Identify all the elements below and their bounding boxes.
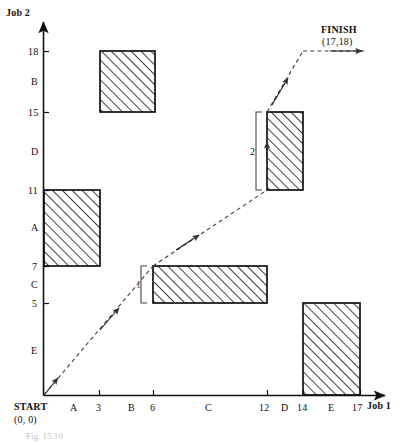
block-c <box>153 266 267 303</box>
block-b <box>100 51 155 112</box>
x-tick-17: 17 <box>352 402 362 413</box>
x-segment-label-c: C <box>205 402 212 413</box>
y-segment-label-b: B <box>31 76 38 87</box>
y-tick-7: 7 <box>32 261 37 272</box>
start-label: START <box>14 401 47 412</box>
block-a <box>44 190 100 266</box>
y-segment-label-d: D <box>31 146 38 157</box>
gantt-job-sequencing-chart: Job 2 Job 1 18 15 11 7 5 B D A C E 3 6 1… <box>0 0 412 443</box>
obstacle-blocks <box>44 51 360 395</box>
figure-caption: Fig. 15.10 <box>26 431 63 441</box>
chart-canvas <box>0 0 412 443</box>
x-segment-label-b: B <box>128 402 135 413</box>
y-segment-label-c: C <box>31 279 38 290</box>
y-tick-11: 11 <box>28 185 38 196</box>
y-segment-label-a: A <box>31 222 38 233</box>
bracket-d-value: 2 <box>250 146 255 157</box>
y-tick-5: 5 <box>32 298 37 309</box>
y-tick-18: 18 <box>28 46 38 57</box>
block-e <box>303 303 360 395</box>
x-segment-label-d: D <box>281 402 288 413</box>
y-tick-15: 15 <box>28 107 38 118</box>
finish-coords: (17,18) <box>322 36 353 47</box>
bracket-d <box>256 112 262 190</box>
x-tick-3: 3 <box>96 402 101 413</box>
x-tick-14: 14 <box>297 402 307 413</box>
y-axis-title: Job 2 <box>6 7 30 18</box>
x-tick-12: 12 <box>259 402 269 413</box>
start-coords: (0, 0) <box>14 414 37 425</box>
block-d <box>267 112 303 190</box>
x-segment-label-e: E <box>328 402 334 413</box>
y-segment-label-e: E <box>31 345 37 356</box>
bracket-c <box>141 266 147 303</box>
x-segment-label-a: A <box>70 402 77 413</box>
x-tick-6: 6 <box>150 402 155 413</box>
bracket-c-value: 1 <box>136 279 141 290</box>
x-axis-title: Job 1 <box>367 400 391 411</box>
finish-label: FINISH <box>321 24 357 35</box>
